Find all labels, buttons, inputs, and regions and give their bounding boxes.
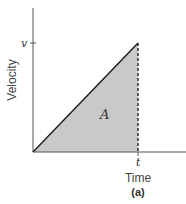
y-axis-label: Velocity: [5, 59, 19, 100]
area-label: A: [99, 107, 109, 122]
y-tick-label: v: [21, 37, 28, 50]
x-tick-label: t: [136, 156, 141, 169]
velocity-time-diagram: v t A Velocity Time (a): [0, 0, 186, 204]
x-axis-label: Time: [125, 171, 152, 185]
figure-caption: (a): [131, 186, 145, 198]
